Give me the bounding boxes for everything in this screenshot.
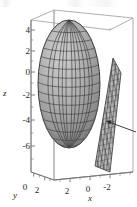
x-tick-label-2: 2 <box>62 187 72 196</box>
y-axis <box>31 172 54 181</box>
z-axis <box>31 20 35 172</box>
x-tick-label-neg2: -2 <box>99 183 115 192</box>
z-tick-label-0: 0 <box>18 68 30 77</box>
ellipsoid-surface <box>38 20 100 148</box>
x-axis-title: x <box>88 194 92 203</box>
z-tick-label-4: 4 <box>18 26 30 35</box>
z-tick-label-neg4: -4 <box>12 116 30 125</box>
y-axis-title: y <box>13 191 17 200</box>
figure-3d-surface-plot: 4 2 0 -2 -4 -6 0 2 2 0 -2 z y x <box>0 0 137 207</box>
z-tick-label-neg6: -6 <box>12 142 30 151</box>
y-tick-label-0: 0 <box>20 183 30 192</box>
scan-artifact <box>0 0 137 7</box>
z-tick-label-neg2: -2 <box>12 91 30 100</box>
y-tick-label-2: 2 <box>32 186 42 195</box>
z-axis-title: z <box>3 89 7 98</box>
z-tick-label-2: 2 <box>18 47 30 56</box>
x-axis <box>54 172 133 182</box>
